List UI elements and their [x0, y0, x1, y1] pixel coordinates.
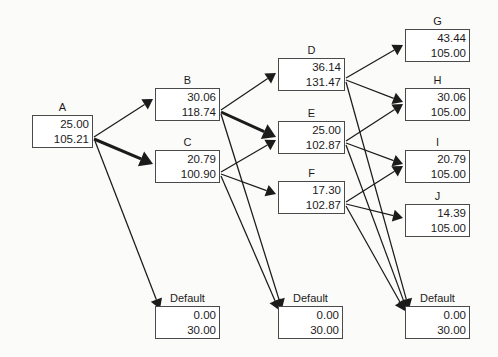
arrowhead-icon: [391, 104, 403, 114]
node-value-secondary: 30.00: [437, 323, 466, 338]
node-box: 0.0030.00: [155, 306, 220, 339]
diagram-canvas: A25.00105.21B30.06118.74C20.79100.90D36.…: [0, 0, 498, 357]
edge-c-to-f: [221, 174, 276, 196]
node-box: 25.00102.87: [278, 121, 345, 154]
node-value-primary: 17.30: [312, 183, 341, 198]
node-box: 20.79105.00: [405, 150, 470, 183]
node-value-secondary: 131.47: [306, 75, 341, 90]
node-label: F: [278, 167, 345, 180]
edge-d-to-h: [346, 80, 403, 104]
node-g[interactable]: G43.44105.00: [405, 29, 470, 62]
edge-line: [221, 79, 268, 110]
edge-f-to-j: [346, 204, 403, 221]
node-i[interactable]: I20.79105.00: [405, 150, 470, 183]
edge-line: [221, 145, 267, 172]
node-value-secondary: 102.87: [306, 138, 341, 153]
node-value-primary: 20.79: [187, 152, 216, 167]
edge-c-to-def2: [221, 176, 281, 310]
node-label: J: [405, 190, 470, 203]
node-value-primary: 14.39: [437, 206, 466, 221]
node-f[interactable]: F17.30102.87: [278, 181, 345, 214]
node-label: I: [405, 136, 470, 149]
node-label: Default: [155, 292, 220, 305]
node-value-secondary: 102.87: [306, 198, 341, 213]
node-value-secondary: 30.00: [310, 323, 339, 338]
node-label: A: [32, 101, 93, 114]
edge-line: [346, 206, 400, 302]
edge-b-to-def2: [221, 114, 285, 309]
node-c[interactable]: C20.79100.90: [155, 150, 220, 183]
edge-c-to-e: [221, 140, 276, 172]
node-def3[interactable]: Default0.0030.00: [405, 306, 470, 339]
node-label: D: [278, 44, 345, 57]
arrowhead-icon: [141, 99, 153, 109]
node-def2[interactable]: Default0.0030.00: [278, 306, 343, 339]
arrowhead-icon: [391, 45, 403, 55]
arrowhead-icon: [264, 73, 276, 84]
edge-b-to-d: [221, 73, 276, 110]
edge-e-to-h: [346, 104, 403, 141]
arrowhead-icon: [391, 166, 403, 176]
node-label: G: [405, 15, 470, 28]
node-value-secondary: 105.00: [431, 221, 466, 236]
node-label: Default: [405, 292, 470, 305]
node-box: 30.06105.00: [405, 88, 470, 121]
edge-a-to-def1: [95, 141, 162, 309]
node-value-primary: 20.79: [437, 152, 466, 167]
node-value-primary: 36.14: [312, 60, 341, 75]
node-label: Default: [278, 292, 343, 305]
node-box: 25.00105.21: [32, 115, 93, 148]
edge-line: [346, 171, 395, 202]
node-label: C: [155, 136, 220, 149]
node-def1[interactable]: Default0.0030.00: [155, 306, 220, 339]
edge-f-to-i: [346, 166, 403, 202]
edge-d-to-g: [346, 45, 403, 78]
edge-line: [346, 50, 394, 78]
node-box: 43.44105.00: [405, 29, 470, 62]
node-value-primary: 30.06: [437, 90, 466, 105]
node-value-primary: 43.44: [437, 31, 466, 46]
node-value-primary: 25.00: [312, 123, 341, 138]
node-value-secondary: 105.00: [431, 46, 466, 61]
node-b[interactable]: B30.06118.74: [155, 88, 220, 121]
node-j[interactable]: J14.39105.00: [405, 204, 470, 237]
edge-line: [346, 109, 395, 141]
node-label: B: [155, 74, 220, 87]
edge-a-to-b: [94, 99, 153, 137]
node-value-primary: 0.00: [317, 308, 339, 323]
edge-e-to-i: [346, 143, 403, 166]
node-value-secondary: 100.90: [181, 167, 216, 182]
edge-line: [221, 112, 264, 132]
edge-line: [346, 204, 393, 216]
edge-f-to-def3: [346, 206, 405, 311]
node-value-primary: 30.06: [187, 90, 216, 105]
arrowhead-icon: [264, 140, 276, 150]
node-box: 0.0030.00: [278, 306, 343, 339]
node-h[interactable]: H30.06105.00: [405, 88, 470, 121]
node-box: 0.0030.00: [405, 306, 470, 339]
arrowhead-icon: [392, 210, 403, 222]
node-label: H: [405, 74, 470, 87]
edge-line: [346, 80, 394, 98]
node-e[interactable]: E25.00102.87: [278, 121, 345, 154]
node-box: 14.39105.00: [405, 204, 470, 237]
node-value-primary: 0.00: [444, 308, 466, 323]
edge-line: [346, 82, 406, 299]
node-box: 17.30102.87: [278, 181, 345, 214]
node-value-primary: 0.00: [194, 308, 216, 323]
edge-line: [346, 143, 394, 161]
node-value-primary: 25.00: [60, 117, 89, 132]
node-label: E: [278, 107, 345, 120]
node-value-secondary: 105.00: [431, 167, 466, 182]
node-value-secondary: 105.00: [431, 105, 466, 120]
edge-line: [94, 104, 145, 137]
node-a[interactable]: A25.00105.21: [32, 115, 93, 148]
node-value-secondary: 30.00: [187, 323, 216, 338]
node-value-secondary: 118.74: [182, 105, 216, 120]
edge-b-to-e: [221, 112, 276, 139]
node-box: 36.14131.47: [278, 58, 345, 91]
node-value-secondary: 105.21: [54, 132, 89, 147]
node-box: 20.79100.90: [155, 150, 220, 183]
node-d[interactable]: D36.14131.47: [278, 58, 345, 91]
node-box: 30.06118.74: [155, 88, 220, 121]
